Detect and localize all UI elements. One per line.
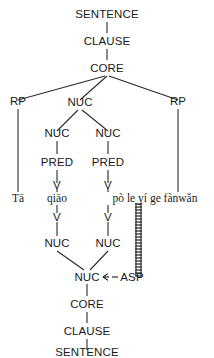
node-v-left-upper: V — [53, 179, 61, 191]
node-pred-right: PRED — [92, 156, 124, 168]
node-pred-left: PRED — [41, 156, 73, 168]
node-nuc-right: NUC — [95, 127, 120, 139]
node-clause-bottom: CLAUSE — [64, 325, 111, 337]
node-clause-top: CLAUSE — [84, 35, 131, 47]
node-nuc-bottom: NUC — [74, 271, 99, 283]
node-v-left-lower: V — [53, 211, 61, 223]
node-v-right-lower: V — [104, 211, 112, 223]
edge-nuc-right-lower-bottom — [90, 251, 108, 270]
node-core-top: CORE — [90, 62, 124, 74]
node-nuc-left-lower: NUC — [44, 237, 69, 249]
node-nuc-left: NUC — [44, 127, 69, 139]
node-nuc-top: NUC — [67, 96, 92, 108]
lexical-verb1: qiāo — [47, 192, 67, 205]
node-sentence-top: SENTENCE — [75, 8, 139, 20]
node-core-bottom: CORE — [70, 298, 104, 310]
node-rp-right: RP — [170, 95, 186, 107]
node-v-right-upper: V — [104, 179, 112, 191]
lexical-verb-phrase2: pò le yí ge fànwǎn — [113, 192, 198, 205]
node-sentence-bottom: SENTENCE — [55, 346, 119, 358]
operator-projection-ladder — [135, 203, 142, 276]
rrg-tree-diagram: SENTENCE CLAUSE CORE RP RP NUC NUC NUC P… — [0, 0, 214, 358]
node-rp-left: RP — [10, 95, 26, 107]
asp-arrow-icon — [103, 274, 118, 281]
node-nuc-right-lower: NUC — [95, 237, 120, 249]
node-asp: ASP — [120, 271, 144, 283]
edge-core-rp-right — [109, 76, 178, 100]
lexical-subject: Tā — [12, 192, 24, 204]
edge-nuc-left-lower-bottom — [57, 251, 84, 270]
syntax-tree-canvas: SENTENCE CLAUSE CORE RP RP NUC NUC NUC P… — [0, 0, 214, 358]
